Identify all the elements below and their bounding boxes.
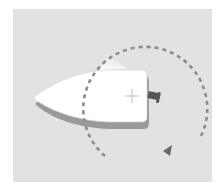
outboard-motor-icon [147, 91, 161, 103]
boat-turn-diagram [0, 0, 223, 189]
direction-arrow-icon [163, 145, 172, 156]
